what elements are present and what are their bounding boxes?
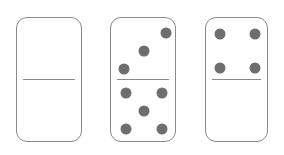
- domino-scene: [0, 0, 284, 155]
- pip: [157, 88, 168, 99]
- domino-half-bottom: [206, 79, 267, 143]
- pip: [250, 29, 261, 40]
- domino-half-top: [206, 18, 267, 79]
- domino-half-top: [17, 18, 81, 79]
- domino-blank-blank[interactable]: [16, 17, 82, 142]
- pip: [121, 88, 132, 99]
- pip: [250, 63, 261, 74]
- pip: [161, 28, 172, 39]
- pip: [121, 124, 132, 135]
- pip: [215, 29, 226, 40]
- pip: [139, 46, 150, 57]
- pip: [157, 124, 168, 135]
- domino-half-bottom: [111, 79, 175, 143]
- domino-four-blank[interactable]: [205, 17, 268, 142]
- domino-half-top: [111, 18, 175, 79]
- pip: [119, 64, 130, 75]
- domino-three-five[interactable]: [110, 17, 176, 142]
- pip: [139, 106, 150, 117]
- pip: [215, 63, 226, 74]
- domino-half-bottom: [17, 79, 81, 143]
